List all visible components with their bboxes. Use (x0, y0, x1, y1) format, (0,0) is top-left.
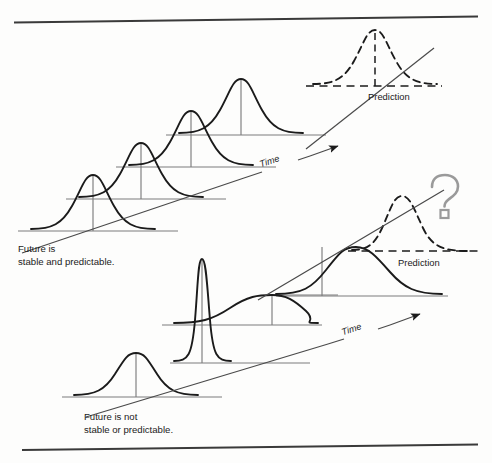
prediction-label-unstable: Prediction (398, 257, 440, 269)
panel-stable (18, 30, 442, 253)
prediction-label-stable: Prediction (368, 91, 410, 103)
time-axis-arrow (310, 146, 338, 156)
caption-stable-line1: Future is (18, 243, 55, 255)
unstable-baselines (62, 295, 448, 397)
distribution-curve-4 (276, 247, 442, 294)
question-mark-icon (424, 172, 466, 220)
unstable-curves (74, 247, 442, 395)
time-axis-tick-left (328, 339, 344, 344)
caption-unstable-line2: stable or predictable. (84, 424, 173, 436)
panel-unstable (62, 190, 478, 417)
caption-unstable-line1: Future is not (84, 411, 137, 423)
unstable-projection-line (258, 190, 444, 300)
time-axis-tick-right (378, 325, 390, 329)
bottom-rule (22, 445, 478, 451)
caption-stable-line2: stable and predictable. (18, 256, 115, 268)
time-axis-tick-left (244, 172, 262, 178)
time-axis-arrow (390, 314, 420, 325)
time-axis-lower (86, 344, 328, 417)
diagram-vector-layer (0, 0, 492, 463)
time-axis-tick-right (298, 156, 310, 160)
diagram-canvas: Prediction Prediction Future is stable a… (0, 0, 492, 463)
unstable-center-lines (136, 247, 322, 397)
time-axis-lower (22, 178, 244, 253)
top-rule (14, 17, 478, 23)
stable-curves (31, 79, 303, 229)
